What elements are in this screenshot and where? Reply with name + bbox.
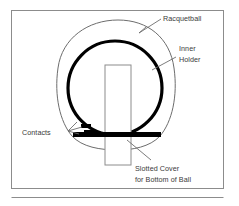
slot-rectangle xyxy=(105,65,131,165)
label-inner-holder-line1: Inner xyxy=(179,44,196,53)
label-slotted-cover-line2: for Bottom of Ball xyxy=(135,175,191,184)
racquetball-assembly-diagram: Racquetball Inner Holder Contacts Slotte… xyxy=(0,0,239,206)
contact-pad-lower xyxy=(84,130,94,134)
label-inner-holder-line2: Holder xyxy=(179,55,201,64)
label-contacts: Contacts xyxy=(22,128,51,137)
label-racquetball: Racquetball xyxy=(163,14,202,23)
label-slotted-cover-line1: Slotted Cover xyxy=(135,164,180,173)
figure-root: Racquetball Inner Holder Contacts Slotte… xyxy=(0,0,239,206)
contact-pad-upper xyxy=(81,124,91,128)
